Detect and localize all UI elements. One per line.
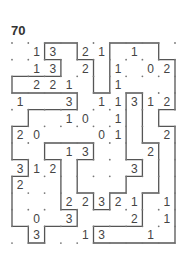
- grid-dot: [142, 142, 144, 144]
- clue-cell: 0: [33, 212, 40, 226]
- grid-dot: [27, 175, 29, 177]
- grid-dot: [93, 192, 95, 194]
- clue-cell: 1: [33, 45, 40, 59]
- grid-dot: [125, 125, 127, 127]
- grid-dot: [158, 59, 160, 61]
- clue-cell: 1: [131, 195, 138, 209]
- grid-dot: [44, 242, 46, 244]
- grid-dot: [60, 59, 62, 61]
- grid-dot: [125, 209, 127, 211]
- grid-dot: [44, 42, 46, 44]
- clue-cell: 2: [164, 62, 171, 76]
- grid-dot: [109, 192, 111, 194]
- grid-dot: [76, 192, 78, 194]
- grid-dot: [158, 175, 160, 177]
- grid-dot: [125, 242, 127, 244]
- grid-dot: [27, 92, 29, 94]
- grid-dot: [109, 142, 111, 144]
- grid-dot: [174, 175, 176, 177]
- clue-cell: 0: [33, 128, 40, 142]
- grid-dot: [174, 92, 176, 94]
- clue-cell: 2: [147, 145, 154, 159]
- grid-dot: [11, 109, 13, 111]
- slitherlink-grid[interactable]: 1321113210222111311312101200121323123222…: [0, 0, 191, 259]
- grid-dot: [174, 242, 176, 244]
- grid-dot: [142, 59, 144, 61]
- clue-cell: 1: [147, 95, 154, 109]
- clue-cell: 2: [115, 195, 122, 209]
- grid-dot: [11, 175, 13, 177]
- grid-dot: [125, 142, 127, 144]
- clue-cell: 1: [115, 95, 122, 109]
- grid-dot: [60, 192, 62, 194]
- grid-dot: [125, 225, 127, 227]
- clue-cell: 1: [98, 45, 105, 59]
- clue-cell: 2: [49, 162, 56, 176]
- grid-dot: [142, 192, 144, 194]
- grid-dot: [158, 159, 160, 161]
- grid-dot: [93, 42, 95, 44]
- clue-cell: 1: [66, 112, 73, 126]
- grid-dot: [174, 42, 176, 44]
- grid-dot: [125, 109, 127, 111]
- grid-dot: [76, 109, 78, 111]
- grid-dot: [93, 142, 95, 144]
- clue-cell: 0: [82, 112, 89, 126]
- grid-dot: [142, 209, 144, 211]
- grid-dot: [27, 209, 29, 211]
- grid-dot: [174, 159, 176, 161]
- grid-dot: [76, 225, 78, 227]
- grid-dot: [174, 75, 176, 77]
- grid-dot: [44, 92, 46, 94]
- grid-dot: [11, 42, 13, 44]
- grid-dot: [76, 42, 78, 44]
- grid-dot: [27, 59, 29, 61]
- clue-cell: 2: [82, 62, 89, 76]
- clue-cell: 2: [164, 128, 171, 142]
- grid-dot: [109, 125, 111, 127]
- grid-dot: [158, 75, 160, 77]
- grid-dot: [174, 59, 176, 61]
- grid-dot: [44, 209, 46, 211]
- clue-cell: 3: [131, 162, 138, 176]
- grid-dot: [44, 109, 46, 111]
- clue-cell: 1: [82, 228, 89, 242]
- grid-dot: [27, 109, 29, 111]
- grid-dot: [11, 209, 13, 211]
- grid-dot: [44, 125, 46, 127]
- grid-dot: [158, 125, 160, 127]
- grid-dot: [11, 59, 13, 61]
- grid-dot: [93, 242, 95, 244]
- clue-cell: 2: [82, 45, 89, 59]
- grid-dot: [60, 159, 62, 161]
- grid-dot: [142, 125, 144, 127]
- grid-dot: [11, 75, 13, 77]
- clue-cell: 1: [115, 112, 122, 126]
- grid-dot: [109, 209, 111, 211]
- grid-dot: [11, 142, 13, 144]
- clue-cell: 3: [66, 95, 73, 109]
- grid-dot: [158, 142, 160, 144]
- grid-dot: [44, 192, 46, 194]
- grid-dot: [93, 59, 95, 61]
- clue-cell: 2: [82, 195, 89, 209]
- grid-dot: [158, 242, 160, 244]
- grid-dot: [11, 92, 13, 94]
- grid-dot: [142, 42, 144, 44]
- grid-dot: [76, 92, 78, 94]
- grid-dot: [142, 75, 144, 77]
- grid-dot: [93, 209, 95, 211]
- clue-cell: 1: [131, 45, 138, 59]
- grid-dot: [27, 125, 29, 127]
- clue-cell: 2: [17, 178, 24, 192]
- grid-dot: [93, 75, 95, 77]
- clue-cell: 3: [98, 228, 105, 242]
- grid-dot: [44, 225, 46, 227]
- grid-dot: [44, 175, 46, 177]
- grid-dot: [44, 59, 46, 61]
- grid-dot: [60, 209, 62, 211]
- grid-dot: [158, 225, 160, 227]
- clue-cell: 3: [49, 62, 56, 76]
- grid-dot: [125, 59, 127, 61]
- grid-dot: [158, 109, 160, 111]
